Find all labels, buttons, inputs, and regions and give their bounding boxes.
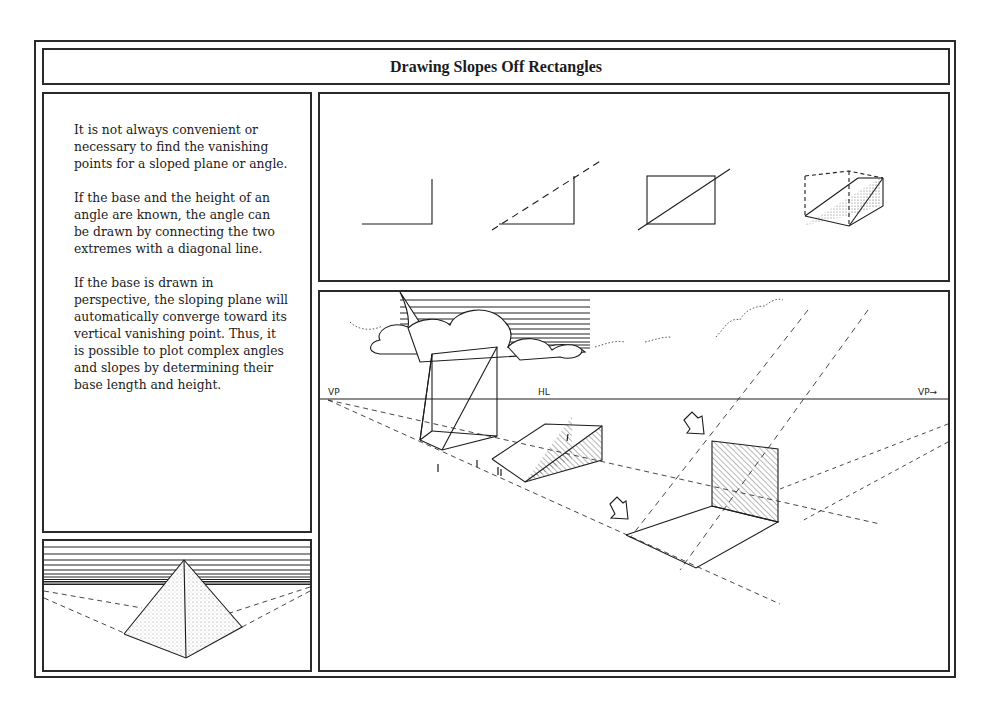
- hl-label: HL: [538, 387, 550, 397]
- step-2-diagonal: [492, 160, 602, 230]
- text-panel: It is not always convenient or necessary…: [42, 92, 312, 533]
- vp-left-label: VP: [328, 387, 340, 397]
- step-4-wedge: [803, 171, 883, 226]
- perspective-scene-illustration: VP HL VP→: [320, 292, 948, 670]
- perspective-scene-panel: VP HL VP→: [318, 290, 950, 672]
- paragraph-2: If the base and the height of an angle a…: [74, 190, 289, 258]
- vp-right-label: VP→: [918, 387, 938, 397]
- step-3-rectangle: [638, 169, 730, 230]
- construction-steps-panel: [318, 92, 950, 282]
- paragraph-1: It is not always convenient or necessary…: [74, 122, 289, 173]
- pyramid-illustration-panel: [42, 539, 312, 672]
- construction-steps-illustration: [320, 94, 948, 280]
- page-title: Drawing Slopes Off Rectangles: [390, 58, 602, 76]
- explanation-text: It is not always convenient or necessary…: [74, 122, 289, 411]
- title-box: Drawing Slopes Off Rectangles: [42, 48, 950, 85]
- paragraph-3: If the base is drawn in perspective, the…: [74, 275, 289, 394]
- clouds: [371, 292, 590, 362]
- pyramid-illustration: [44, 541, 310, 670]
- step-1-base-height: [362, 179, 432, 224]
